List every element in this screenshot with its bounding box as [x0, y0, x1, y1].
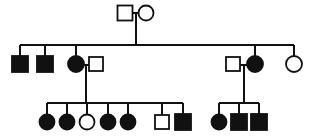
individual-II-5-male-unaffected[interactable] [226, 57, 240, 71]
individual-III-1-female-affected[interactable] [40, 115, 55, 130]
individual-II-2-male-affected[interactable] [37, 56, 53, 72]
individual-II-4-male-unaffected[interactable] [89, 57, 103, 71]
individual-III-8-female-affected[interactable] [212, 115, 227, 130]
individual-III-5-female-affected[interactable] [121, 115, 136, 130]
mating-group-I [133, 13, 139, 45]
mating-group-II-a [83, 64, 89, 103]
individual-III-10-male-affected[interactable] [251, 114, 267, 130]
individual-III-4-female-affected[interactable] [101, 115, 116, 130]
sibship-group-III-right [219, 103, 259, 115]
sibship-group-III-left [47, 103, 183, 115]
individual-I-1-male-unaffected[interactable] [118, 6, 133, 21]
individual-III-7-male-affected[interactable] [175, 114, 191, 130]
individual-III-9-male-affected[interactable] [231, 114, 247, 130]
individual-III-2-female-affected[interactable] [60, 115, 75, 130]
individual-I-2-female-unaffected[interactable] [139, 6, 154, 21]
pedigree-chart [0, 0, 318, 139]
individual-II-6-female-affected[interactable] [247, 56, 263, 72]
individual-II-3-female-affected[interactable] [68, 56, 84, 72]
individual-II-1-male-affected[interactable] [12, 56, 28, 72]
sibship-group-II [20, 45, 294, 56]
individual-III-3-female-unaffected[interactable] [80, 115, 95, 130]
individual-III-6-male-unaffected[interactable] [155, 115, 169, 129]
individual-II-7-female-unaffected[interactable] [286, 56, 302, 72]
mating-group-II-b [240, 64, 248, 103]
pedigree-canvas [0, 0, 318, 139]
